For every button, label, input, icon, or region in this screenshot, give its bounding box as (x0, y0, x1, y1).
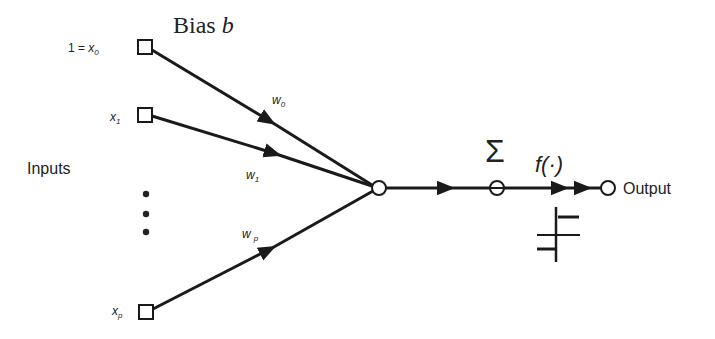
weight-label-w0: w0 (272, 93, 286, 109)
step-function-icon (537, 207, 580, 262)
edge-w0-part2 (265, 118, 372, 185)
edge-w0-part1 (152, 50, 268, 120)
ellipsis-dot (143, 211, 149, 217)
sum-symbol: Σ (485, 133, 505, 169)
edge-wp-part2 (265, 191, 373, 252)
output-node (601, 181, 615, 195)
activation-label: f(·) (535, 152, 563, 177)
ellipsis-dot (143, 229, 149, 235)
input-label-x0: 1 = x0 (68, 41, 99, 57)
input-label-xp: xp (111, 304, 123, 320)
weight-label-wp: wp (242, 227, 259, 243)
input-node-xp (139, 305, 153, 319)
bias-label: Bias b (173, 12, 234, 38)
ellipsis-dot (143, 191, 149, 197)
perceptron-diagram: Bias b 1 = x0 x1 xp Inputs w0 w1 wp (0, 0, 715, 339)
input-node-x1 (138, 108, 152, 122)
edge-w1-part1 (152, 116, 273, 153)
edge-wp-part1 (153, 250, 268, 309)
input-node-x0 (138, 40, 152, 54)
edge-w1-part2 (270, 152, 372, 186)
weight-label-w1: w1 (246, 168, 259, 184)
summing-node (372, 181, 386, 195)
input-label-x1: x1 (109, 110, 120, 126)
output-label: Output (623, 180, 672, 197)
inputs-label: Inputs (27, 160, 71, 177)
